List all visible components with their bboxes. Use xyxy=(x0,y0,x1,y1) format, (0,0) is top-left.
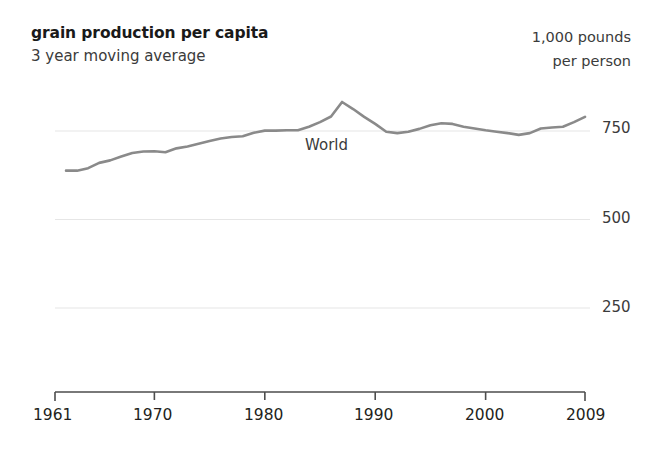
chart-svg xyxy=(0,0,667,473)
x-tick-label-2000: 2000 xyxy=(465,408,504,424)
x-tick-label-1970: 1970 xyxy=(133,408,172,424)
x-tick-label-1990: 1990 xyxy=(354,408,393,424)
plot-area: 750 500 250 World 1961 1970 1980 1990 20… xyxy=(0,0,667,473)
chart-container: grain production per capita 3 year movin… xyxy=(0,0,667,473)
gridlines xyxy=(55,131,590,308)
y-tick-label-250: 250 xyxy=(602,300,631,315)
x-tick-label-1961: 1961 xyxy=(33,408,72,424)
x-axis xyxy=(55,392,585,401)
series-annotation-world: World xyxy=(305,138,348,153)
x-tick-label-2009: 2009 xyxy=(566,408,605,424)
y-tick-label-500: 500 xyxy=(602,211,631,226)
y-tick-label-750: 750 xyxy=(602,121,631,136)
x-tick-label-1980: 1980 xyxy=(244,408,283,424)
